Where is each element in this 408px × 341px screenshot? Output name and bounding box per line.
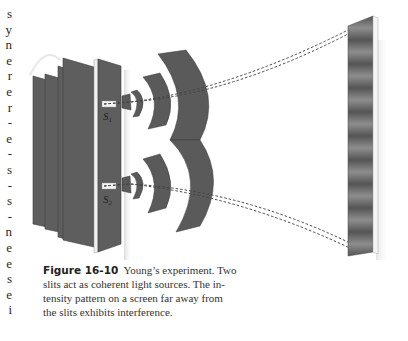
interference-screen	[348, 16, 390, 260]
caption-line-1: Young’s experiment. Two	[123, 264, 236, 276]
path-lines	[104, 28, 352, 249]
figure-label: Figure 16-10	[43, 264, 118, 276]
clipped-char: i	[0, 302, 12, 318]
faint-arc	[30, 55, 60, 75]
caption-line-2: slits act as coherent light sources. The…	[43, 277, 273, 291]
clipped-char: s	[0, 271, 12, 287]
wavefronts-slit-1	[131, 50, 209, 140]
slit-barrier	[94, 59, 132, 260]
figure-caption: Figure 16-10 Young’s experiment. Two sli…	[43, 263, 273, 319]
plane-wave-plates	[33, 58, 94, 247]
youngs-experiment-diagram: S1 S2	[0, 0, 408, 260]
caption-line-4: the slits exhibits interference.	[43, 305, 273, 319]
clipped-char: e	[0, 287, 12, 303]
wavefronts-slit-2	[131, 140, 214, 232]
caption-line-3: tensity pattern on a screen far away fro…	[43, 291, 273, 305]
